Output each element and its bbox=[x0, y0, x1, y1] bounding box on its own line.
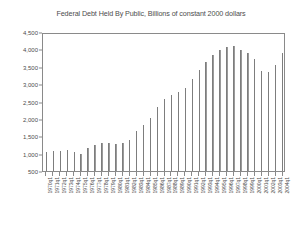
y-axis: 4,5004,0003,5003,0002,5002,0001,5001,000… bbox=[0, 33, 42, 172]
x-axis-tick-mark bbox=[73, 172, 74, 176]
bar bbox=[282, 53, 283, 171]
bar bbox=[171, 95, 172, 171]
x-axis-tick-label: 1989q1 bbox=[179, 177, 185, 193]
y-axis-tick-mark bbox=[39, 85, 42, 86]
bar bbox=[254, 59, 255, 171]
chart-title: Federal Debt Held By Public, Billions of… bbox=[0, 9, 302, 18]
y-axis-tick-label: 4,500 bbox=[23, 30, 38, 36]
x-axis-tick-label: 1997q1 bbox=[235, 177, 241, 193]
bar bbox=[136, 131, 137, 171]
x-axis-tick-label: 1995q1 bbox=[221, 177, 227, 193]
x-axis-tick-mark bbox=[282, 172, 283, 176]
bar bbox=[46, 152, 47, 171]
y-axis-tick-mark bbox=[39, 67, 42, 68]
y-axis-tick-label: 3,500 bbox=[23, 65, 38, 71]
x-axis-tick-mark bbox=[219, 172, 220, 176]
x-axis-tick-label: 2003q1 bbox=[277, 177, 283, 193]
x-axis-tick-label: 1977q1 bbox=[96, 177, 102, 193]
bar bbox=[233, 46, 234, 171]
x-axis-tick-label: 1998q1 bbox=[242, 177, 248, 193]
x-axis-tick-mark bbox=[247, 172, 248, 176]
x-axis-tick-label: 2004q1 bbox=[284, 177, 290, 193]
bar bbox=[261, 71, 262, 171]
x-axis-tick-label: 1974q1 bbox=[75, 177, 81, 193]
x-axis-tick-mark bbox=[198, 172, 199, 176]
x-axis-tick-label: 1973q1 bbox=[68, 177, 74, 193]
y-axis-tick-label: 2,000 bbox=[23, 117, 38, 123]
bar bbox=[87, 148, 88, 171]
x-axis-tick-mark bbox=[184, 172, 185, 176]
bar bbox=[143, 125, 144, 171]
bar bbox=[247, 53, 248, 171]
x-axis-tick-mark bbox=[254, 172, 255, 176]
x-axis-tick-mark bbox=[150, 172, 151, 176]
x-axis-tick-label: 1970q1 bbox=[47, 177, 53, 193]
x-axis-tick-label: 1978q1 bbox=[103, 177, 109, 193]
plot-area bbox=[43, 34, 284, 171]
bar bbox=[199, 70, 200, 171]
x-axis-tick-label: 2001q1 bbox=[263, 177, 269, 193]
y-axis-tick-label: 500 bbox=[28, 169, 38, 175]
x-axis-tick-label: 2000q1 bbox=[256, 177, 262, 193]
x-axis-tick-mark bbox=[115, 172, 116, 176]
x-axis-tick-mark bbox=[240, 172, 241, 176]
x-axis-tick-mark bbox=[122, 172, 123, 176]
x-axis-tick-mark bbox=[52, 172, 53, 176]
bar bbox=[157, 107, 158, 171]
x-axis-tick-mark bbox=[129, 172, 130, 176]
x-axis-tick-label: 1976q1 bbox=[89, 177, 95, 193]
bar bbox=[192, 79, 193, 171]
x-axis-tick-label: 1991q1 bbox=[193, 177, 199, 193]
y-axis-tick-mark bbox=[39, 154, 42, 155]
y-axis-tick-label: 2,500 bbox=[23, 100, 38, 106]
y-axis-tick-mark bbox=[39, 119, 42, 120]
chart-figure: Federal Debt Held By Public, Billions of… bbox=[0, 0, 302, 230]
bar bbox=[268, 72, 269, 171]
x-axis-tick-label: 2002q1 bbox=[270, 177, 276, 193]
x-axis-tick-mark bbox=[87, 172, 88, 176]
y-axis-tick-label: 3,000 bbox=[23, 82, 38, 88]
x-axis-tick-mark bbox=[45, 172, 46, 176]
y-axis-tick-label: 1,500 bbox=[23, 134, 38, 140]
bar bbox=[74, 152, 75, 171]
x-axis-tick-label: 1993q1 bbox=[207, 177, 213, 193]
bar bbox=[115, 144, 116, 171]
y-axis-tick-mark bbox=[39, 50, 42, 51]
x-axis-tick-label: 1992q1 bbox=[200, 177, 206, 193]
x-axis-tick-mark bbox=[261, 172, 262, 176]
x-axis-tick-mark bbox=[275, 172, 276, 176]
x-axis-tick-mark bbox=[143, 172, 144, 176]
x-axis-tick-mark bbox=[177, 172, 178, 176]
x-axis-tick-label: 1972q1 bbox=[61, 177, 67, 193]
bar bbox=[178, 92, 179, 171]
x-axis: 1970q11971q11972q11973q11974q11975q11976… bbox=[42, 172, 285, 230]
x-axis-tick-mark bbox=[108, 172, 109, 176]
x-axis-tick-mark bbox=[268, 172, 269, 176]
x-axis-tick-label: 1984q1 bbox=[145, 177, 151, 193]
x-axis-tick-mark bbox=[66, 172, 67, 176]
bar bbox=[219, 50, 220, 171]
y-axis-tick-mark bbox=[39, 172, 42, 173]
x-axis-tick-mark bbox=[59, 172, 60, 176]
x-axis-tick-label: 1986q1 bbox=[159, 177, 165, 193]
bar bbox=[185, 88, 186, 171]
x-axis-tick-mark bbox=[80, 172, 81, 176]
bar bbox=[164, 99, 165, 171]
y-axis-tick-mark bbox=[39, 137, 42, 138]
x-axis-tick-mark bbox=[233, 172, 234, 176]
bar bbox=[53, 151, 54, 171]
bar bbox=[101, 143, 102, 171]
x-axis-tick-mark bbox=[101, 172, 102, 176]
plot-frame bbox=[42, 33, 285, 172]
x-axis-tick-mark bbox=[226, 172, 227, 176]
bar bbox=[240, 50, 241, 171]
x-axis-tick-label: 1999q1 bbox=[249, 177, 255, 193]
x-axis-tick-mark bbox=[136, 172, 137, 176]
bar bbox=[80, 154, 81, 171]
bar bbox=[67, 150, 68, 171]
x-axis-tick-label: 1975q1 bbox=[82, 177, 88, 193]
x-axis-tick-label: 1990q1 bbox=[186, 177, 192, 193]
x-axis-tick-label: 1994q1 bbox=[214, 177, 220, 193]
x-axis-tick-label: 1996q1 bbox=[228, 177, 234, 193]
x-axis-tick-mark bbox=[191, 172, 192, 176]
